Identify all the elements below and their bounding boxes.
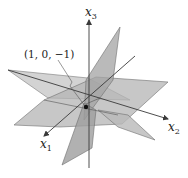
x3-axis-label: x3 (85, 6, 97, 21)
intersection-point (84, 105, 88, 109)
point-label: (1, 0, −1) (24, 49, 74, 60)
three-planes-figure: x3 x2 x1 (1, 0, −1) (0, 0, 188, 178)
x1-axis-label: x1 (40, 138, 52, 153)
figure-canvas (0, 0, 188, 178)
x2-axis-label: x2 (168, 121, 180, 136)
